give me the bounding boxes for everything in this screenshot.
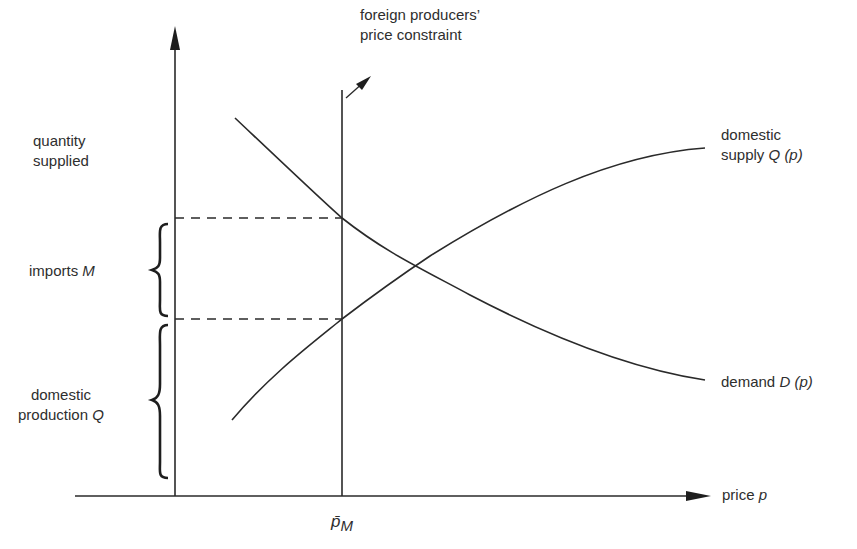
imports-var: M — [82, 262, 95, 279]
x-axis-label: price p — [722, 485, 767, 505]
domestic-production-var: Q — [92, 406, 104, 423]
constraint-label-line1: foreign producers’ — [360, 5, 480, 25]
diagram-canvas — [0, 0, 857, 549]
imports-brace — [152, 224, 168, 316]
domestic-production-word: production — [18, 406, 88, 423]
supply-arg: (p) — [784, 146, 802, 163]
pm-sub: M — [340, 517, 353, 534]
pm-tick-label: p̄M — [331, 512, 353, 532]
x-axis-arrow-icon — [686, 491, 711, 501]
supply-label: domestic supply Q (p) — [721, 125, 803, 165]
demand-curve — [235, 118, 705, 380]
supply-label-line1: domestic — [721, 125, 803, 145]
supply-word: supply — [721, 146, 764, 163]
x-axis-var: p — [759, 486, 767, 503]
domestic-production-label: domestic production Q — [18, 385, 104, 425]
domestic-production-brace — [152, 325, 168, 478]
demand-arg: (p) — [794, 373, 812, 390]
imports-label: imports M — [29, 261, 95, 281]
supply-curve — [232, 148, 705, 420]
y-axis-arrow-icon — [170, 26, 180, 50]
constraint-label: foreign producers’ price constraint — [360, 5, 480, 45]
demand-word: demand — [721, 373, 775, 390]
y-axis-label: quantity supplied — [33, 131, 89, 171]
constraint-label-line2: price constraint — [360, 25, 480, 45]
y-axis-label-line1: quantity — [33, 131, 89, 151]
demand-var: D — [779, 373, 790, 390]
y-axis-label-line2: supplied — [33, 151, 89, 171]
imports-word: imports — [29, 262, 78, 279]
demand-label: demand D (p) — [721, 372, 813, 392]
x-axis-word: price — [722, 486, 755, 503]
supply-var: Q — [769, 146, 781, 163]
domestic-production-line1: domestic — [18, 385, 104, 405]
